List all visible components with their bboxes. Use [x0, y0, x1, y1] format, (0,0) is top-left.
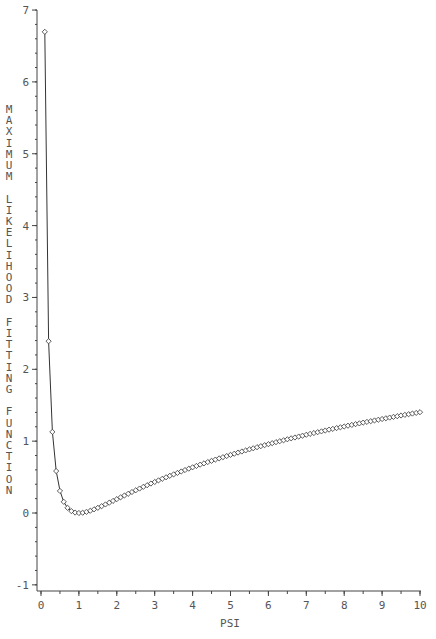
- plot-area: [42, 29, 422, 515]
- y-axis: -101234567: [16, 4, 37, 592]
- x-tick-label: 2: [113, 599, 120, 612]
- x-axis: 012345678910: [37, 591, 427, 612]
- y-tick-label: 4: [22, 220, 29, 233]
- y-tick-label: 7: [22, 4, 29, 17]
- x-tick-label: 3: [151, 599, 158, 612]
- data-line: [45, 32, 420, 513]
- y-tick-label: 0: [22, 507, 29, 520]
- data-point-marker: [46, 339, 51, 344]
- x-tick-label: 1: [76, 599, 83, 612]
- y-axis-title-letter: G: [6, 383, 13, 396]
- x-tick-label: 10: [413, 599, 426, 612]
- x-tick-label: 8: [341, 599, 348, 612]
- y-tick-label: 6: [22, 76, 29, 89]
- x-tick-label: 7: [303, 599, 310, 612]
- data-point-marker: [50, 429, 55, 434]
- x-tick-label: 9: [379, 599, 386, 612]
- y-tick-label: 3: [22, 291, 29, 304]
- y-tick-label: 5: [22, 148, 29, 161]
- data-point-marker: [57, 488, 62, 493]
- y-tick-label: 1: [22, 435, 29, 448]
- y-tick-label: -1: [16, 579, 29, 592]
- y-axis-title: MAXIMUMLIKELIHOODFITTINGFUNCTION: [6, 103, 13, 497]
- x-tick-label: 4: [189, 599, 196, 612]
- data-point-marker: [54, 468, 59, 473]
- data-point-marker: [61, 499, 66, 504]
- y-tick-label: 2: [22, 363, 29, 376]
- x-tick-label: 6: [265, 599, 272, 612]
- y-axis-title-letter: D: [6, 293, 13, 306]
- data-markers: [42, 29, 422, 515]
- x-tick-label: 5: [227, 599, 234, 612]
- chart: MAXIMUMLIKELIHOODFITTINGFUNCTION -101234…: [0, 0, 436, 639]
- data-point-marker: [42, 29, 47, 34]
- y-axis-title-letter: N: [6, 484, 13, 497]
- x-tick-label: 0: [38, 599, 45, 612]
- x-axis-title: PSI: [220, 617, 240, 630]
- y-axis-title-letter: M: [6, 170, 13, 183]
